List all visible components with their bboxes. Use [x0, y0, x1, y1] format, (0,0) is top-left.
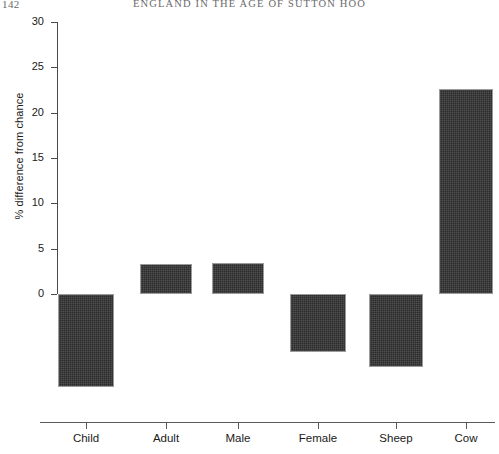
- x-axis-tick: [86, 422, 87, 429]
- y-axis-line: [57, 22, 58, 294]
- x-axis-tick: [318, 422, 319, 429]
- x-axis-label-child: Child: [41, 432, 131, 445]
- x-axis-tick: [466, 422, 467, 429]
- bar-child: [58, 294, 114, 387]
- page: 142 ENGLAND IN THE AGE OF SUTTON HOO 051…: [0, 0, 499, 454]
- x-axis-tick: [238, 422, 239, 429]
- x-axis-label-female: Female: [273, 432, 363, 445]
- y-axis-tick: [51, 22, 57, 23]
- bar-cow: [439, 89, 493, 294]
- x-axis-label-cow: Cow: [421, 432, 499, 445]
- y-axis-tick: [51, 158, 57, 159]
- bar-adult: [140, 264, 192, 294]
- y-axis-tick: [51, 249, 57, 250]
- y-axis-tick-label: 30: [0, 16, 44, 27]
- x-axis-line: [40, 422, 495, 423]
- bar-male: [212, 263, 264, 294]
- y-axis-label: % difference from chance: [13, 41, 25, 271]
- y-axis-tick: [51, 294, 57, 295]
- bar-sheep: [369, 294, 423, 367]
- x-axis-tick: [396, 422, 397, 429]
- x-axis-label-male: Male: [193, 432, 283, 445]
- y-axis-tick: [51, 203, 57, 204]
- bar-female: [290, 294, 346, 352]
- y-axis-tick-label: 0: [0, 288, 44, 299]
- x-axis-tick: [166, 422, 167, 429]
- y-axis-tick: [51, 67, 57, 68]
- y-axis-tick: [51, 113, 57, 114]
- bar-chart: 051015202530 % difference from chance Ch…: [0, 0, 499, 454]
